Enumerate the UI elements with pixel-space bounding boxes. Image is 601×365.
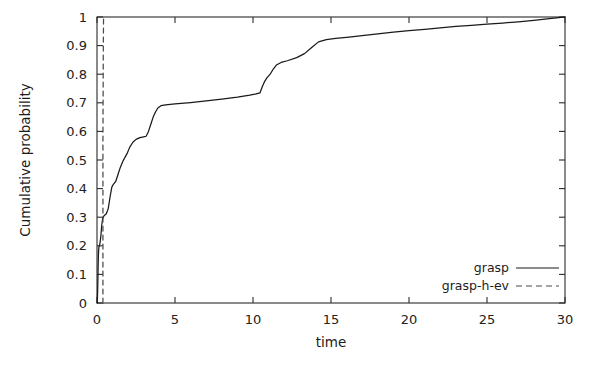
y-tick-label-0.8: 0.8 [66,67,87,82]
chart-page: 051015202530 00.10.20.30.40.50.60.70.80.… [0,0,601,365]
cumulative-probability-chart: 051015202530 00.10.20.30.40.50.60.70.80.… [0,0,601,365]
y-tick-label-0.1: 0.1 [66,267,87,282]
y-tick-label-1: 1 [79,10,87,25]
y-tick-label-0.2: 0.2 [66,238,87,253]
x-tick-label-30: 30 [557,312,574,327]
x-tick-label-0: 0 [93,312,101,327]
y-tick-label-0.9: 0.9 [66,38,87,53]
x-axis-title: time [316,334,347,350]
y-tick-label-0.5: 0.5 [66,153,87,168]
legend-item-label-grasp: grasp [474,260,509,275]
y-axis-tick-labels: 00.10.20.30.40.50.60.70.80.91 [66,10,87,311]
x-tick-label-25: 25 [479,312,496,327]
y-tick-label-0: 0 [79,296,87,311]
y-tick-label-0.6: 0.6 [66,124,87,139]
series-line-grasp-h-ev [103,17,104,303]
y-tick-label-0.4: 0.4 [66,181,87,196]
y-tick-label-0.3: 0.3 [66,210,87,225]
y-axis-title: Cumulative probability [17,83,33,236]
x-tick-label-10: 10 [245,312,262,327]
y-tick-label-0.7: 0.7 [66,95,87,110]
x-axis-tick-labels: 051015202530 [93,312,573,327]
legend-item-label-grasp-h-ev: grasp-h-ev [442,278,510,293]
x-tick-label-5: 5 [171,312,179,327]
x-tick-label-15: 15 [323,312,340,327]
chart-legend: grasp grasp-h-ev [442,260,559,293]
x-tick-label-20: 20 [401,312,418,327]
